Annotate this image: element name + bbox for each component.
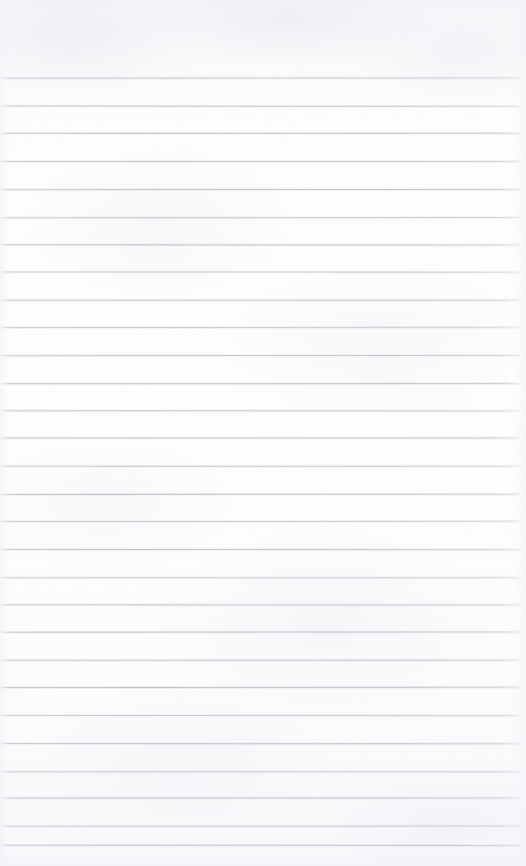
ruled-paper-page (0, 0, 526, 866)
page-text-content (0, 0, 526, 866)
